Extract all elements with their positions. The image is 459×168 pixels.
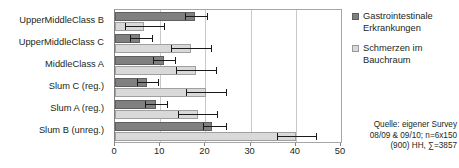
bar-group <box>115 76 341 98</box>
bar-row <box>115 110 341 119</box>
error-bar <box>130 38 152 39</box>
x-tick-label: 0 <box>111 146 116 157</box>
legend-swatch-icon <box>352 45 359 52</box>
category-label: Slum A (reg.) <box>50 103 104 113</box>
bar-gastrointestinal <box>115 12 195 21</box>
chart-legend: GastrointestinaleErkrankungenSchmerzen i… <box>352 11 457 75</box>
legend-swatch-icon <box>352 13 359 20</box>
error-bar-cap-low <box>176 67 177 74</box>
x-tick-label: 20 <box>199 146 209 157</box>
error-bar-cap-low <box>186 89 187 96</box>
bar-row <box>115 22 341 31</box>
error-bar <box>153 60 176 61</box>
source-line-3: (900) HH, ∑=3857 <box>350 141 457 152</box>
error-bar-cap-high <box>217 111 218 118</box>
error-bar <box>145 104 169 105</box>
legend-label: Schmerzen imBauchraum <box>363 43 422 66</box>
error-bar-cap-low <box>171 45 172 52</box>
bar-row <box>115 12 341 21</box>
bar-group <box>115 10 341 32</box>
bar-row <box>115 66 341 75</box>
error-bar <box>137 82 159 83</box>
error-bar <box>125 26 164 27</box>
error-bar-cap-high <box>316 133 317 140</box>
legend-label: GastrointestinaleErkrankungen <box>363 11 433 34</box>
bar-row <box>115 100 341 109</box>
error-bar-cap-high <box>164 23 165 30</box>
x-tick-label: 50 <box>335 146 345 157</box>
error-bar-cap-low <box>178 111 179 118</box>
error-bar <box>203 126 227 127</box>
bar-group <box>115 54 341 76</box>
legend-item[interactable]: GastrointestinaleErkrankungen <box>352 11 457 34</box>
category-label: UpperMiddleClass C <box>19 37 104 47</box>
bar-row <box>115 88 341 97</box>
category-axis-labels: UpperMiddleClass BUpperMiddleClass CMidd… <box>0 9 108 143</box>
error-bar-cap-high <box>167 101 168 108</box>
x-tick-label: 10 <box>154 146 164 157</box>
bar-row <box>115 132 341 141</box>
error-bar-cap-high <box>226 123 227 130</box>
bar-abdominal-pain <box>115 132 296 141</box>
category-label: Slum C (reg.) <box>49 81 104 91</box>
bar-group <box>115 98 341 120</box>
bar-group <box>115 120 341 142</box>
source-line-1: Quelle: eigener Survey <box>350 120 457 131</box>
category-label: Slum B (unreg.) <box>39 125 104 135</box>
error-bar <box>186 92 228 93</box>
error-bar <box>178 114 218 115</box>
error-bar-cap-low <box>145 101 146 108</box>
error-bar-cap-high <box>158 79 159 86</box>
error-bar-cap-high <box>175 57 176 64</box>
bar-row <box>115 56 341 65</box>
x-tick-label: 40 <box>290 146 300 157</box>
error-bar-cap-low <box>185 13 186 20</box>
legend-label-line-1: Schmerzen im <box>363 43 422 55</box>
error-bar-cap-high <box>207 13 208 20</box>
error-bar-cap-low <box>125 23 126 30</box>
legend-item[interactable]: Schmerzen imBauchraum <box>352 43 457 66</box>
error-bar-cap-high <box>226 89 227 96</box>
source-note: Quelle: eigener Survey 08/09 & 09/10; n=… <box>350 120 457 152</box>
category-label: MiddleClass A <box>45 59 104 69</box>
bar-gastrointestinal <box>115 122 212 131</box>
bar-group <box>115 32 341 54</box>
error-bar-cap-low <box>153 57 154 64</box>
bar-row <box>115 34 341 43</box>
source-line-2: 08/09 & 09/10; n=6x150 <box>350 131 457 142</box>
error-bar-cap-low <box>130 35 131 42</box>
bar-row <box>115 44 341 53</box>
error-bar <box>185 16 209 17</box>
error-bar-cap-low <box>203 123 204 130</box>
error-bar-cap-low <box>137 79 138 86</box>
bar-chart: UpperMiddleClass BUpperMiddleClass CMidd… <box>0 0 459 168</box>
error-bar-cap-high <box>152 35 153 42</box>
x-tick-label: 30 <box>244 146 254 157</box>
bar-row <box>115 122 341 131</box>
plot-area <box>114 9 342 143</box>
category-label: UpperMiddleClass B <box>19 15 104 25</box>
legend-label-line-1: Gastrointestinale <box>363 11 433 23</box>
error-bar <box>176 70 216 71</box>
error-bar-cap-low <box>277 133 278 140</box>
bar-row <box>115 78 341 87</box>
error-bar-cap-high <box>216 67 217 74</box>
error-bar-cap-high <box>211 45 212 52</box>
legend-label-line-2: Bauchraum <box>363 55 422 67</box>
error-bar <box>277 136 318 137</box>
x-axis: 01020304050 <box>114 143 342 157</box>
legend-label-line-2: Erkrankungen <box>363 23 433 35</box>
error-bar <box>171 48 212 49</box>
